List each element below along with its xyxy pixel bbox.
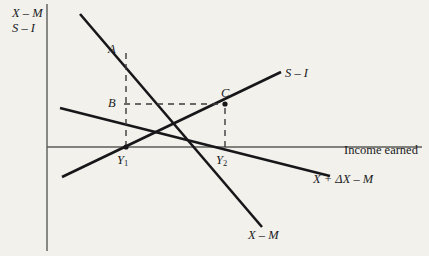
y-axis-label-line-2: S – I	[12, 21, 43, 36]
point-label-y1: Y1	[117, 153, 128, 168]
point-marker-y1	[123, 144, 128, 149]
point-label-c: C	[221, 86, 229, 101]
point-marker-c	[222, 101, 227, 106]
y-axis-label: X – M S – I	[12, 6, 43, 36]
y-axis-label-line-1: X – M	[12, 6, 43, 21]
point-label-y1-subscript: 1	[124, 158, 128, 168]
point-label-y2: Y2	[216, 153, 227, 168]
point-label-y2-subscript: 2	[223, 158, 227, 168]
diagram-canvas	[0, 0, 429, 256]
curve-label-x-minus-m: X – M	[248, 228, 279, 243]
point-label-b: B	[108, 96, 116, 111]
curve-s-minus-i	[62, 72, 281, 177]
point-label-a: A	[108, 42, 116, 57]
curve-x-plus-delta-x-minus-m	[60, 108, 330, 176]
economics-diagram: X – M S – I A B C Y1 Y2 S – I X – M X + …	[0, 0, 429, 256]
point-label-y2-base: Y	[216, 153, 223, 167]
curve-label-s-minus-i: S – I	[285, 66, 308, 81]
x-axis-label: Income earned	[344, 143, 418, 158]
curve-label-x-plus-delta-x-minus-m: X + ΔX – M	[313, 172, 373, 187]
point-label-y1-base: Y	[117, 153, 124, 167]
